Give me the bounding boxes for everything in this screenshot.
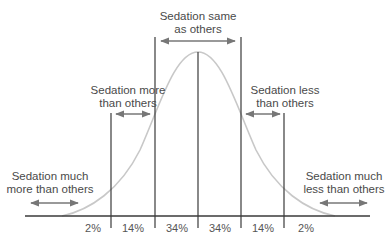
label-sedation-much-less-line2: less than others [296,183,390,196]
percent-center-right: 34% [200,222,240,234]
label-sedation-less: Sedation less than others [240,84,330,110]
label-sedation-same-line2: as others [148,23,248,36]
percent-right: 14% [243,222,283,234]
percent-left: 14% [113,222,153,234]
label-sedation-less-line2: than others [240,97,330,110]
percent-far-right: 2% [286,222,326,234]
label-sedation-more-line1: Sedation more [78,84,178,97]
label-sedation-same-line1: Sedation same [148,10,248,23]
label-sedation-same: Sedation same as others [148,10,248,36]
label-sedation-much-more-line2: more than others [0,183,100,196]
label-sedation-much-less-line1: Sedation much [296,170,390,183]
label-sedation-more: Sedation more than others [78,84,178,110]
percent-far-left: 2% [73,222,113,234]
label-sedation-much-more-line1: Sedation much [0,170,100,183]
bell-curve-diagram [0,0,390,240]
percent-center-left: 34% [157,222,197,234]
label-sedation-much-more: Sedation much more than others [0,170,100,196]
label-sedation-less-line1: Sedation less [240,84,330,97]
label-sedation-more-line2: than others [78,97,178,110]
label-sedation-much-less: Sedation much less than others [296,170,390,196]
